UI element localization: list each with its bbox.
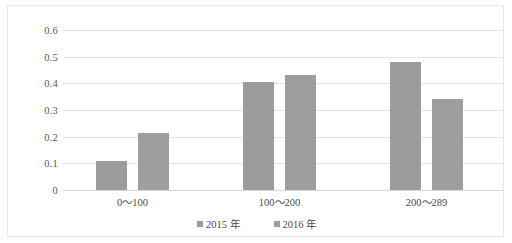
- legend-swatch-icon: [274, 221, 280, 227]
- x-axis-line: [63, 190, 503, 191]
- y-tick-label: 0.4: [14, 78, 58, 89]
- y-tick-label: 0.2: [14, 131, 58, 142]
- x-axis-category-labels: 0～100 100～200 200～289: [63, 194, 503, 212]
- y-tick-label: 0.3: [14, 105, 58, 116]
- bar-2015-0to100: [96, 161, 127, 190]
- legend-label-2015: 2015 年: [206, 216, 240, 231]
- bar-2016-200to289: [432, 99, 463, 190]
- y-axis-tick-labels: 0.6 0.5 0.4 0.3 0.2 0.1 0: [8, 30, 58, 190]
- plot-area: [63, 30, 503, 190]
- y-tick-label: 0.5: [14, 51, 58, 62]
- gridline: [63, 30, 503, 31]
- gridline: [63, 83, 503, 84]
- legend-label-2016: 2016 年: [283, 216, 317, 231]
- x-tick-label-0: 0～100: [82, 194, 183, 209]
- x-tick-label-2: 200～289: [376, 194, 477, 209]
- y-tick-label: 0.6: [14, 25, 58, 36]
- bar-2016-0to100: [138, 133, 169, 190]
- chart-frame: 0.6 0.5 0.4 0.3 0.2 0.1 0 0～100 100～200 …: [7, 5, 504, 237]
- bar-2015-100to200: [243, 82, 274, 190]
- legend-item-2015[interactable]: 2015 年: [197, 216, 240, 231]
- y-tick-label: 0.1: [14, 158, 58, 169]
- bar-2015-200to289: [390, 62, 421, 190]
- legend-swatch-icon: [197, 221, 203, 227]
- y-tick-label: 0: [14, 185, 58, 196]
- x-tick-label-1: 100～200: [229, 194, 330, 209]
- gridline: [63, 57, 503, 58]
- bar-2016-100to200: [285, 75, 316, 190]
- legend-item-2016[interactable]: 2016 年: [274, 216, 317, 231]
- chart-legend: 2015 年 2016 年: [8, 216, 505, 231]
